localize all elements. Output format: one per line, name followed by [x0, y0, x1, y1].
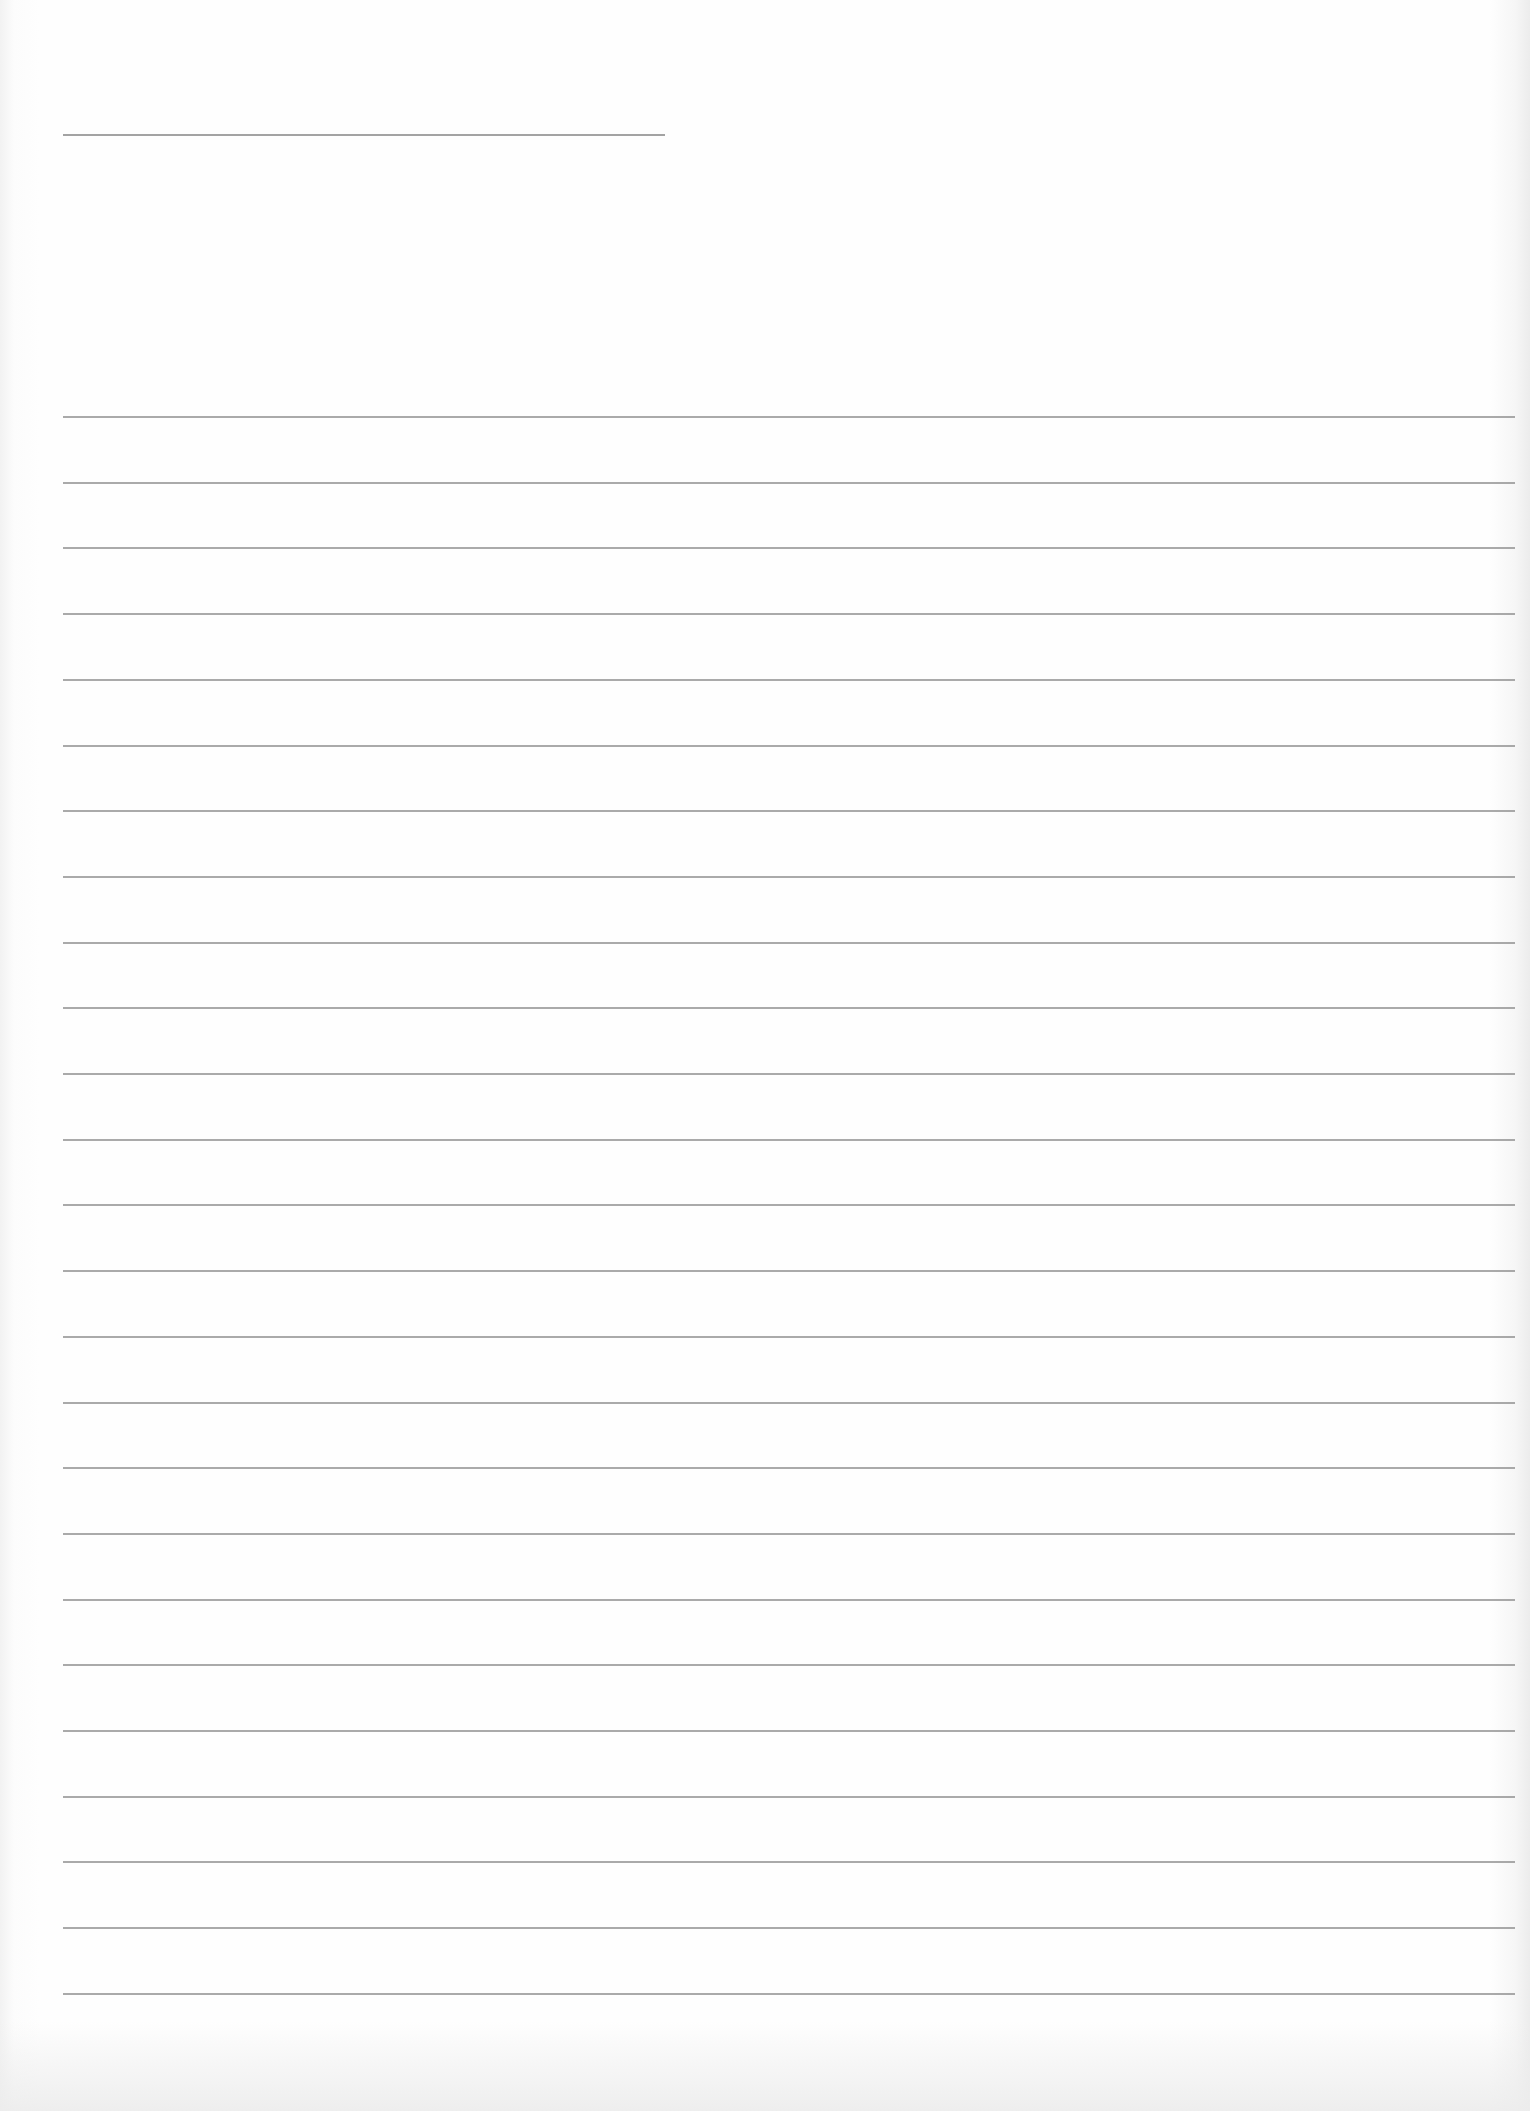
- rule-line: [63, 1402, 1515, 1404]
- paper-edge-shadow: [0, 2021, 1530, 2111]
- rule-line: [63, 810, 1515, 812]
- rule-line: [63, 416, 1515, 418]
- rule-line: [63, 1336, 1515, 1338]
- rule-line: [63, 1796, 1515, 1798]
- rule-line: [63, 679, 1515, 681]
- rule-line: [63, 1139, 1515, 1141]
- rule-line: [63, 1073, 1515, 1075]
- rule-line: [63, 1007, 1515, 1009]
- rule-line: [63, 1993, 1515, 1995]
- rule-line: [63, 1599, 1515, 1601]
- rule-line: [63, 613, 1515, 615]
- rule-line: [63, 1730, 1515, 1732]
- rule-line: [63, 1927, 1515, 1929]
- rule-line: [63, 1270, 1515, 1272]
- rule-line: [63, 876, 1515, 878]
- rule-line: [63, 1204, 1515, 1206]
- rule-line: [63, 482, 1515, 484]
- rule-line: [63, 1664, 1515, 1666]
- rule-line: [63, 547, 1515, 549]
- rule-line: [63, 1467, 1515, 1469]
- rule-line: [63, 745, 1515, 747]
- paper-sheet: [0, 0, 1530, 2111]
- rule-line: [63, 942, 1515, 944]
- rule-line: [63, 1533, 1515, 1535]
- title-write-line: [63, 134, 665, 136]
- rule-line: [63, 1861, 1515, 1863]
